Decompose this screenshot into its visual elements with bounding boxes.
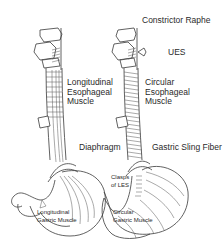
left-larynx (34, 28, 62, 70)
label-constrictor-raphe: Constrictor Raphe (142, 16, 211, 26)
left-esophagus (38, 68, 66, 162)
left-diaphragm (48, 164, 78, 182)
left-stomach (12, 171, 106, 236)
esophagus-stomach-diagram: Constrictor Raphe UES Longitudinal Esoph… (0, 0, 224, 242)
label-circular-gastric-muscle: Circular Gastric Muscle (113, 209, 153, 224)
label-circular-esophageal-muscle: Circular Esophageal Muscle (145, 78, 190, 107)
label-longitudinal-gastric-muscle: Longitudinal Gastric Muscle (37, 209, 77, 224)
label-ues: UES (168, 48, 185, 58)
right-diaphragm (126, 161, 152, 176)
label-diaphragm: Diaphragm (79, 143, 121, 153)
anatomy-illustration (0, 0, 224, 242)
label-longitudinal-esophageal-muscle: Longitudinal Esophageal Muscle (67, 78, 113, 107)
label-gastric-sling-fiber: Gastric Sling Fiber (152, 143, 222, 153)
label-clasps-of-les: Clasps of LES (111, 174, 129, 189)
right-larynx (112, 28, 146, 70)
